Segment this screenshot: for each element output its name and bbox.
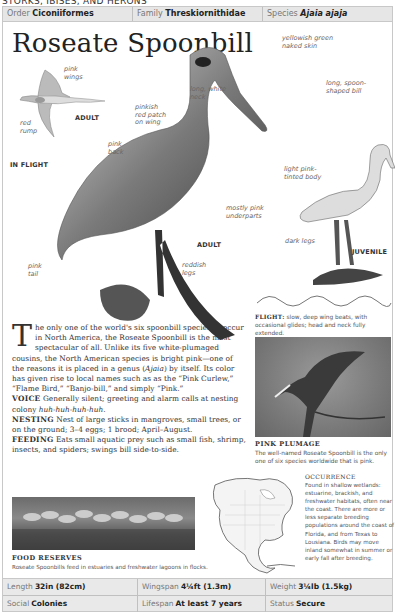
label-yellowish-green: yellowish greennaked skin [282,35,333,50]
pink-plumage-photo [255,337,391,437]
intro-paragraph: The only one of the world's six spoonbil… [12,323,247,394]
food-reserves-title: FOOD RESERVES [12,554,82,562]
flight-description: FLIGHT: slow, deep wing beats, with occa… [255,313,393,337]
caption-juvenile: JUVENILE [352,248,387,256]
taxonomy-family: Family Threskiornithidae [133,7,263,21]
taxonomy-order: Order Ciconiiformes [3,7,133,21]
label-pinkish-red-patch: pinkishred patchon wing [135,104,166,127]
stats-table: Length32in (82cm) Wingspan4¼ft (1.3m) We… [2,578,393,612]
voice-paragraph: VOICE Generally silent; greeting and ala… [12,394,247,414]
range-map [205,470,305,575]
label-pink-back: pinkback [108,141,123,156]
pink-plumage-title: PINK PLUMAGE [255,440,320,448]
drop-cap: T [12,324,32,348]
label-reddish-legs: reddishlegs [182,262,206,277]
taxonomy-species: Species Ajaia ajaja [263,7,392,21]
stat-social: SocialColonies [3,596,138,612]
flight-pattern-icon [255,293,393,307]
label-spoon-bill: long, spoon-shaped bill [326,80,366,95]
species-description: The only one of the world's six spoonbil… [12,323,247,456]
stat-length: Length32in (82cm) [3,579,138,596]
occurrence-title: OCCURRENCE [305,473,356,480]
nesting-paragraph: NESTING Nest of large sticks in mangrove… [12,415,247,435]
label-pink-tail: pinktail [28,263,42,278]
label-light-pink-body: light pink-tinted body [284,166,321,181]
stat-status: StatusSecure [266,596,392,612]
juvenile-bird-illustration [278,140,395,290]
food-reserves-photo [12,497,195,550]
caption-adult: ADULT [197,241,221,249]
food-reserves-caption: Roseate Spoonbills feed in estuaries and… [12,564,208,570]
label-dark-legs: dark legs [285,238,315,246]
stat-lifespan: LifespanAt least 7 years [138,596,266,612]
occurrence-text: Found in shallow wetlands: estuarine, br… [305,481,395,562]
label-mostly-pink: mostly pinkunderparts [226,205,264,220]
stat-wingspan: Wingspan4¼ft (1.3m) [138,579,266,596]
feeding-paragraph: FEEDING Eats small aquatic prey such as … [12,435,247,455]
taxonomy-bar: Order Ciconiiformes Family Threskiornith… [2,6,393,22]
label-long-white-neck: long, whiteneck [190,86,226,101]
stat-weight: Weight3¼lb (1.5kg) [266,579,392,596]
pink-plumage-caption: The well-named Roseate Spoonbill is the … [255,449,395,465]
label-red-rump: redrump [20,120,37,135]
